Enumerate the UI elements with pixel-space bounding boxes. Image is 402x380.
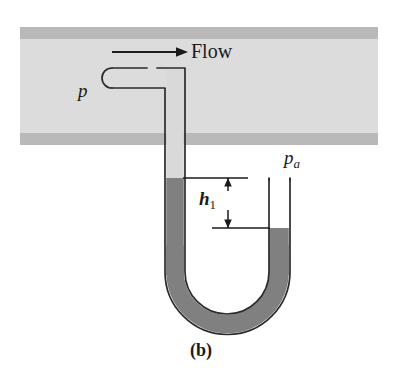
left-limb-light-fluid	[166, 69, 184, 178]
h1-arrow-down-icon	[224, 220, 232, 229]
pressure-label-p: p	[78, 81, 88, 100]
figure-caption: (b)	[0, 341, 402, 359]
right-limb-air-gap	[269, 179, 289, 228]
pa-subscript: a	[294, 156, 301, 171]
pipe-bottom-wall	[20, 133, 378, 145]
pa-base: p	[284, 147, 294, 168]
u-bend-right-fill	[269, 245, 289, 275]
ambient-pressure-label-pa: pa	[284, 148, 300, 170]
flow-label: Flow	[191, 41, 232, 61]
h1-subscript: 1	[210, 197, 217, 212]
h1-base: h	[199, 188, 210, 209]
manometer-flow-diagram: p pa h1 Flow (b)	[0, 0, 402, 380]
h1-arrow-up-icon	[224, 178, 232, 187]
height-label-h1: h1	[199, 189, 216, 211]
u-bend-left-fill	[166, 245, 184, 275]
pipe-top-wall	[20, 27, 378, 39]
